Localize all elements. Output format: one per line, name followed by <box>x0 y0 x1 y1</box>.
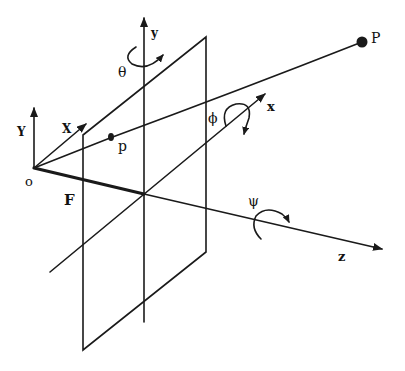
phi-label: ϕ <box>208 110 218 126</box>
camera-x-axis <box>34 124 86 168</box>
image-point-p <box>108 133 114 141</box>
origin-label: o <box>25 174 33 189</box>
theta-rotation-arrow <box>128 47 163 67</box>
world-point-label: P <box>371 30 380 46</box>
x-axis-label: x <box>267 99 275 114</box>
focal-length-label: F <box>64 191 75 209</box>
z-axis-label: z <box>338 249 345 264</box>
psi-label: ψ <box>248 193 259 209</box>
camera-x-label: X <box>62 122 72 136</box>
psi-rotation-arrow <box>254 210 289 239</box>
z-axis <box>144 194 382 249</box>
image-point-label: p <box>118 138 127 154</box>
focal-length-line <box>34 168 144 194</box>
y-axis-label: y <box>150 26 159 40</box>
phi-rotation-arrow <box>224 104 249 134</box>
world-point-P <box>357 37 368 48</box>
theta-label: θ <box>118 64 126 80</box>
projection-diagram: o Y X F p P y x z θ ϕ ψ <box>0 0 405 371</box>
camera-y-label: Y <box>16 125 26 139</box>
